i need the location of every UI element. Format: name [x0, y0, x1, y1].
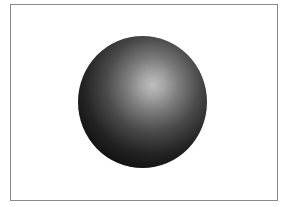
shaded-sphere: [78, 36, 207, 168]
